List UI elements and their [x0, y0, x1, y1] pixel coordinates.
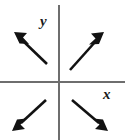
quadrant-iii-arrowhead: [12, 119, 27, 132]
quadrant-iii-vector: [12, 100, 46, 131]
quadrant-ii-arrowhead: [14, 32, 29, 44]
quadrant-iv-arrowhead: [93, 119, 108, 132]
coordinate-plane-figure: y x: [0, 0, 125, 140]
quadrant-i-vector-shaft: [70, 41, 96, 70]
x-axis-label: x: [103, 87, 111, 102]
figure-canvas: [0, 0, 125, 140]
quadrant-i-vector: [70, 32, 104, 70]
quadrant-iv-vector: [72, 100, 108, 131]
quadrant-i-arrowhead: [89, 32, 104, 45]
y-axis-label: y: [40, 14, 47, 29]
quadrant-ii-vector: [14, 32, 47, 64]
